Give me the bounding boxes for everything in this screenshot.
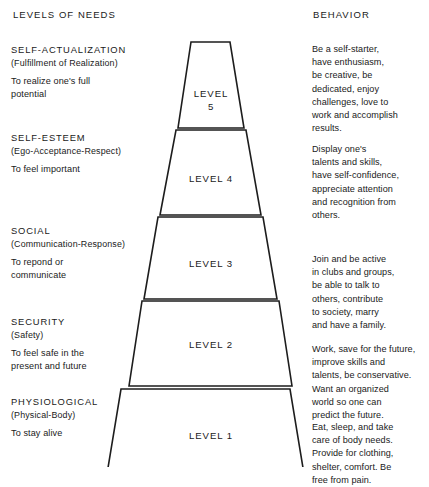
need-description: To feel important: [11, 163, 161, 176]
need-title: PHYSIOLOGICAL: [11, 396, 161, 409]
pyramid-tier-3-label: LEVEL 3: [160, 258, 262, 271]
need-subtitle: (Safety): [11, 329, 161, 342]
need-subtitle: (Communication-Response): [11, 238, 161, 251]
pyramid-tier-5-label: LEVEL 5: [176, 88, 246, 113]
behavior-entry-self-actualization: Be a self-starter, have enthusiasm, be c…: [312, 43, 429, 135]
need-description: To feel safe in the present and future: [11, 347, 161, 373]
pyramid-tier-4-label: LEVEL 4: [160, 173, 262, 186]
need-description: To repond or communicate: [11, 256, 161, 282]
need-title: SELF-ACTUALIZATION: [11, 44, 161, 57]
need-entry-social: SOCIAL (Communication-Response) To repon…: [11, 225, 161, 282]
behavior-entry-social: Join and be active in clubs and groups, …: [312, 253, 429, 332]
need-description: To realize one's full potential: [11, 75, 161, 101]
pyramid-tier-1-label: LEVEL 1: [160, 430, 262, 443]
behavior-entry-security: Work, save for the future, improve skill…: [312, 343, 429, 422]
behavior-entry-self-esteem: Display one's talents and skills, have s…: [312, 143, 429, 222]
need-entry-security: SECURITY (Safety) To feel safe in the pr…: [11, 316, 161, 373]
need-description: To stay alive: [11, 427, 161, 440]
need-title: SOCIAL: [11, 225, 161, 238]
need-subtitle: (Physical-Body): [11, 409, 161, 422]
behavior-entry-physiological: Eat, sleep, and take care of body needs.…: [312, 421, 429, 487]
need-subtitle: (Fulfillment of Realization): [11, 57, 161, 70]
need-entry-self-actualization: SELF-ACTUALIZATION (Fulfillment of Reali…: [11, 44, 161, 101]
need-entry-self-esteem: SELF-ESTEEM (Ego-Acceptance-Respect) To …: [11, 132, 161, 176]
need-entry-physiological: PHYSIOLOGICAL (Physical-Body) To stay al…: [11, 396, 161, 440]
need-title: SECURITY: [11, 316, 161, 329]
need-subtitle: (Ego-Acceptance-Respect): [11, 145, 161, 158]
pyramid-tier-5: [178, 42, 244, 128]
need-title: SELF-ESTEEM: [11, 132, 161, 145]
pyramid-tier-2-label: LEVEL 2: [160, 339, 262, 352]
